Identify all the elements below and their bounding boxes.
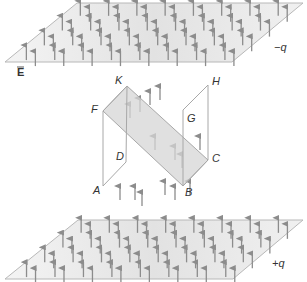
vertex-label-f: F <box>91 103 99 115</box>
edge-AD <box>103 162 126 186</box>
charge-label-positive: +q <box>272 257 285 269</box>
vertex-label-h: H <box>212 75 220 87</box>
positive-plate <box>5 220 303 279</box>
edge-GH <box>183 85 208 110</box>
field-label-e: E <box>17 66 24 78</box>
field-diagram: KHFGDCAB E −q +q <box>0 0 307 282</box>
vertex-label-d: D <box>116 150 124 162</box>
charge-label-negative: −q <box>274 41 287 53</box>
vertex-label-a: A <box>92 184 100 196</box>
vertex-label-g: G <box>187 112 196 124</box>
vertex-label-b: B <box>185 186 192 198</box>
cube-abcdfghk <box>103 85 208 186</box>
diagram-canvas: KHFGDCAB E −q +q <box>0 0 307 282</box>
vertex-label-c: C <box>212 152 220 164</box>
vertex-label-k: K <box>115 74 123 86</box>
